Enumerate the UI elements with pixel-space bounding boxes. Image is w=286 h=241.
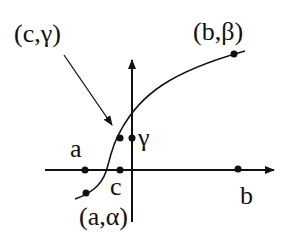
pointer-arrow [64,55,112,125]
label-c: c [110,172,122,201]
point-a-alpha [83,190,90,197]
label-b: b [240,181,253,210]
label-gamma: γ [137,123,150,152]
label-a-alpha: (a,α) [79,202,128,231]
label-a: a [70,134,82,163]
point-b-beta [231,51,238,58]
function-curve [75,51,245,199]
label-b-beta: (b,β) [193,17,243,46]
function-diagram: (c,γ) (b,β) a γ c (a,α) b [0,0,286,241]
point-b-axis [235,166,242,173]
point-a-axis [82,167,89,174]
label-c-gamma: (c,γ) [14,19,61,48]
point-c-gamma [117,135,124,142]
point-gamma-axis [129,135,136,142]
